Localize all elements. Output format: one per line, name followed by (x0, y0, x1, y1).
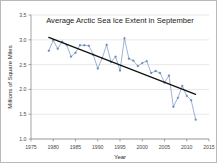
data-point (177, 97, 179, 99)
data-point (155, 70, 157, 72)
x-axis-label: Year (114, 154, 126, 160)
sea-ice-extent-markers (48, 37, 197, 120)
x-tick-label: 1980 (47, 144, 59, 150)
data-point (137, 65, 139, 67)
data-point (83, 44, 85, 46)
data-point (132, 60, 134, 62)
data-point (168, 75, 170, 77)
x-tick-label: 1975 (25, 144, 37, 150)
y-tick-label: 2.5 (19, 62, 26, 68)
data-point (146, 60, 148, 62)
x-tick-label: 1985 (70, 144, 82, 150)
data-point (70, 56, 72, 58)
x-tick-label: 2010 (181, 144, 193, 150)
data-point (97, 68, 99, 70)
data-point (75, 52, 77, 54)
arctic-sea-ice-line-chart: 1.01.52.02.53.03.5 197519801985199019952… (1, 1, 216, 162)
x-tick-label: 2005 (159, 144, 171, 150)
y-axis-ticks: 1.01.52.02.53.03.5 (19, 12, 31, 142)
data-point (159, 72, 161, 74)
x-tick-label: 2000 (136, 144, 148, 150)
data-point (79, 44, 81, 46)
y-tick-label: 1.0 (19, 136, 26, 142)
data-point (106, 44, 108, 46)
data-point (57, 48, 59, 50)
x-axis-ticks: 197519801985199019952000200520102015 (25, 139, 215, 150)
y-tick-label: 2.0 (19, 86, 26, 92)
data-point (115, 56, 117, 58)
x-tick-label: 1995 (114, 144, 126, 150)
y-tick-label: 3.5 (19, 12, 26, 18)
linear-trend-line (49, 37, 196, 94)
y-tick-label: 1.5 (19, 111, 26, 117)
data-point (119, 70, 121, 72)
data-point (150, 72, 152, 74)
y-tick-label: 3.0 (19, 37, 26, 43)
data-point (48, 50, 50, 52)
x-tick-label: 1990 (92, 144, 104, 150)
gridlines (31, 15, 209, 139)
data-point (186, 95, 188, 97)
data-point (124, 37, 126, 39)
data-point (181, 85, 183, 87)
data-point (195, 119, 197, 121)
y-axis-label: Millions of Square Miles (7, 45, 13, 108)
chart-title: Average Arctic Sea Ice Extent in Septemb… (46, 16, 194, 25)
data-point (128, 58, 130, 60)
data-point (190, 99, 192, 101)
chart-figure: 1.01.52.02.53.03.5 197519801985199019952… (0, 0, 217, 163)
data-point (88, 45, 90, 47)
data-point (141, 62, 143, 64)
data-point (172, 106, 174, 108)
x-tick-label: 2015 (203, 144, 215, 150)
